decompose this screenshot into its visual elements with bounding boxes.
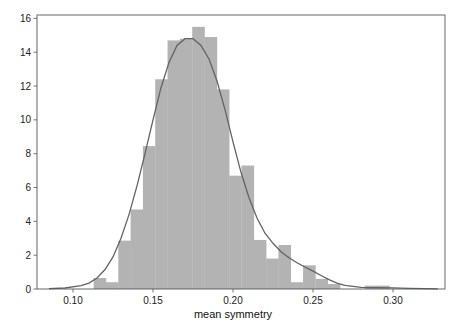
histogram-bar [254,240,267,289]
histogram-chart: 0.100.150.200.250.30 0246810121416 mean … [0,0,465,326]
y-tick-label: 14 [20,47,32,58]
histogram-bar [241,166,254,289]
histogram-bar [180,39,193,289]
histogram-bar [291,282,304,289]
x-tick-label: 0.10 [63,295,83,306]
histogram-bar [155,79,168,289]
histogram-bar [131,210,144,289]
histogram-bar [315,279,328,289]
histogram-bar [143,146,156,289]
y-tick-label: 4 [25,216,31,227]
x-tick-label: 0.15 [143,295,163,306]
y-tick-label: 8 [25,148,31,159]
histogram-bar [266,259,279,289]
histogram-bar [106,282,119,289]
y-tick-label: 2 [25,250,31,261]
y-tick-label: 0 [25,284,31,295]
x-tick-label: 0.25 [303,295,323,306]
x-tick-label: 0.20 [223,295,243,306]
histogram-bar [118,241,131,289]
y-tick-label: 12 [20,81,32,92]
x-axis-ticks: 0.100.150.200.250.30 [63,289,403,306]
histogram-bar [328,284,341,289]
y-tick-label: 10 [20,114,32,125]
histogram-bar [229,176,242,289]
y-axis-ticks: 0246810121416 [20,13,37,295]
histogram-bar [192,27,205,289]
histogram-bar [168,40,181,289]
x-axis-label: mean symmetry [194,308,273,320]
x-tick-label: 0.30 [383,295,403,306]
y-tick-label: 16 [20,13,32,24]
y-tick-label: 6 [25,182,31,193]
histogram-bars [94,27,390,289]
